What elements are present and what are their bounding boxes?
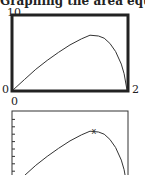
plot2-frame xyxy=(12,111,128,175)
plots-canvas: x xyxy=(0,0,145,175)
plot2-series-area xyxy=(13,131,127,175)
plot1-frame xyxy=(12,15,128,91)
plot1-series-area xyxy=(13,35,127,90)
maximum-marker: x xyxy=(92,127,97,136)
